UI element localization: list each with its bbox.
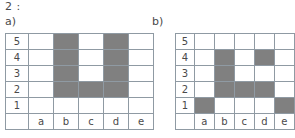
cell-a3[interactable] — [29, 66, 54, 82]
row-label-5: 5 — [6, 34, 29, 50]
grid-row: 2 — [6, 82, 154, 98]
grid-row: 2 — [176, 82, 295, 98]
cell-a2[interactable] — [29, 82, 54, 98]
cell-b1[interactable] — [54, 98, 79, 114]
column-label-d: d — [104, 114, 129, 130]
grid-row: 4 — [176, 50, 295, 66]
cell-d4[interactable] — [104, 50, 129, 66]
row-label-2: 2 — [176, 82, 195, 98]
question-number: 2 : — [5, 1, 21, 13]
cell-c3[interactable] — [234, 66, 254, 82]
part-label-b: b) — [152, 16, 163, 28]
cell-c1[interactable] — [234, 98, 254, 114]
grid-a: 54321abcde — [5, 33, 154, 130]
column-label-c: c — [79, 114, 104, 130]
grid-b-table: 54321abcde — [175, 33, 295, 130]
cell-b4[interactable] — [214, 50, 234, 66]
cell-a4[interactable] — [194, 50, 214, 66]
cell-b5[interactable] — [54, 34, 79, 50]
column-label-b: b — [214, 114, 234, 130]
row-label-3: 3 — [176, 66, 195, 82]
cell-e3[interactable] — [274, 66, 294, 82]
cell-c5[interactable] — [79, 34, 104, 50]
grid-row: 1 — [176, 98, 295, 114]
cell-c4[interactable] — [79, 50, 104, 66]
grid-corner — [6, 114, 29, 130]
grid-row: 3 — [6, 66, 154, 82]
cell-b2[interactable] — [214, 82, 234, 98]
cell-a3[interactable] — [194, 66, 214, 82]
cell-d3[interactable] — [104, 66, 129, 82]
cell-b3[interactable] — [54, 66, 79, 82]
grid-row: 3 — [176, 66, 295, 82]
part-label-a: a) — [5, 16, 16, 28]
row-label-4: 4 — [6, 50, 29, 66]
cell-e4[interactable] — [129, 50, 154, 66]
row-label-1: 1 — [176, 98, 195, 114]
grid-row: 5 — [6, 34, 154, 50]
cell-a1[interactable] — [194, 98, 214, 114]
grid-column-header-row: abcde — [6, 114, 154, 130]
cell-d3[interactable] — [254, 66, 274, 82]
row-label-1: 1 — [6, 98, 29, 114]
row-label-5: 5 — [176, 34, 195, 50]
cell-d2[interactable] — [104, 82, 129, 98]
cell-d4[interactable] — [254, 50, 274, 66]
grid-row: 5 — [176, 34, 295, 50]
cell-c2[interactable] — [234, 82, 254, 98]
grid-column-header-row: abcde — [176, 114, 295, 130]
grid-b: 54321abcde — [175, 33, 295, 130]
grid-b-body: 54321abcde — [176, 34, 295, 130]
column-label-a: a — [194, 114, 214, 130]
grid-row: 4 — [6, 50, 154, 66]
cell-d1[interactable] — [254, 98, 274, 114]
grid-a-body: 54321abcde — [6, 34, 154, 130]
cell-c4[interactable] — [234, 50, 254, 66]
column-label-e: e — [274, 114, 294, 130]
column-label-d: d — [254, 114, 274, 130]
cell-a2[interactable] — [194, 82, 214, 98]
cell-d2[interactable] — [254, 82, 274, 98]
cell-e2[interactable] — [274, 82, 294, 98]
column-label-a: a — [29, 114, 54, 130]
cell-d5[interactable] — [254, 34, 274, 50]
cell-b2[interactable] — [54, 82, 79, 98]
row-label-4: 4 — [176, 50, 195, 66]
cell-c5[interactable] — [234, 34, 254, 50]
column-label-e: e — [129, 114, 154, 130]
cell-c2[interactable] — [79, 82, 104, 98]
cell-e1[interactable] — [274, 98, 294, 114]
cell-c3[interactable] — [79, 66, 104, 82]
column-label-b: b — [54, 114, 79, 130]
cell-b5[interactable] — [214, 34, 234, 50]
cell-e3[interactable] — [129, 66, 154, 82]
cell-d1[interactable] — [104, 98, 129, 114]
cell-a5[interactable] — [194, 34, 214, 50]
cell-e1[interactable] — [129, 98, 154, 114]
cell-e4[interactable] — [274, 50, 294, 66]
cell-d5[interactable] — [104, 34, 129, 50]
cell-c1[interactable] — [79, 98, 104, 114]
cell-b1[interactable] — [214, 98, 234, 114]
column-label-c: c — [234, 114, 254, 130]
cell-a1[interactable] — [29, 98, 54, 114]
cell-b4[interactable] — [54, 50, 79, 66]
grid-a-table: 54321abcde — [5, 33, 154, 130]
cell-b3[interactable] — [214, 66, 234, 82]
row-label-3: 3 — [6, 66, 29, 82]
cell-a4[interactable] — [29, 50, 54, 66]
cell-e5[interactable] — [274, 34, 294, 50]
grid-corner — [176, 114, 195, 130]
grid-row: 1 — [6, 98, 154, 114]
cell-e5[interactable] — [129, 34, 154, 50]
row-label-2: 2 — [6, 82, 29, 98]
cell-e2[interactable] — [129, 82, 154, 98]
cell-a5[interactable] — [29, 34, 54, 50]
